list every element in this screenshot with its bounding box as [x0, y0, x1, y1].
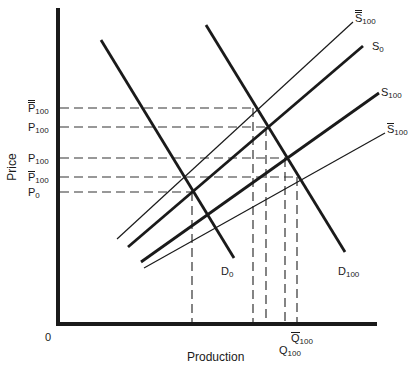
price-label-p100-lower: P100	[28, 153, 49, 167]
curve-label-s100-double-bar: S100	[355, 13, 376, 27]
price-label-p100-bar: P100	[28, 172, 49, 186]
price-label-p100-double-bar: P100	[28, 103, 49, 117]
supply-demand-diagram	[0, 0, 414, 370]
price-label-p100-upper: P100	[28, 122, 49, 136]
curve-label-d0: D0	[221, 266, 233, 280]
supply-curve-s0	[128, 46, 363, 247]
y-axis-title: Price	[5, 153, 19, 180]
curve-label-s100-bar: S100	[387, 124, 408, 138]
quantity-label-q100: Q100	[279, 345, 301, 359]
curve-label-d100: D100	[338, 266, 359, 280]
curve-label-s0: S0	[372, 41, 384, 55]
curve-label-s100: S100	[381, 87, 402, 101]
origin-label: 0	[45, 332, 51, 343]
price-label-p0: P0	[28, 187, 40, 201]
x-axis-title: Production	[187, 350, 244, 364]
supply-curve-s100-bar	[144, 133, 385, 268]
